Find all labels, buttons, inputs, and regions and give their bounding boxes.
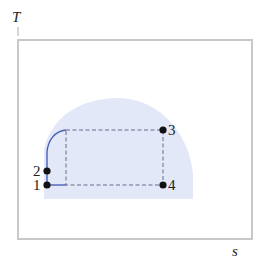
point-3-label: 3 xyxy=(168,122,176,138)
point-2-label: 2 xyxy=(33,163,41,179)
point-1-label: 1 xyxy=(33,177,41,193)
point-3 xyxy=(159,126,166,133)
ts-diagram: 1 2 3 4 T s xyxy=(0,0,270,263)
y-axis-label: T xyxy=(12,9,22,25)
point-2 xyxy=(43,167,50,174)
point-4 xyxy=(159,181,166,188)
point-1 xyxy=(43,181,50,188)
point-4-label: 4 xyxy=(168,177,176,193)
x-axis-label: s xyxy=(232,243,238,259)
